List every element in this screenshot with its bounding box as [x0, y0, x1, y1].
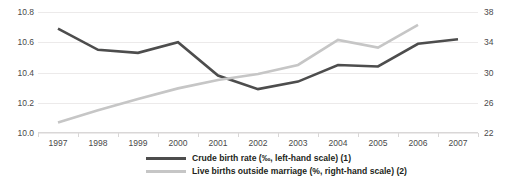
x-tick: [318, 133, 319, 137]
legend-label-live-births-outside-marriage: Live births outside marriage (%, right-h…: [192, 167, 407, 176]
left-axis-tick-label: 10.0: [4, 129, 34, 138]
right-axis-tick-label: 30: [484, 69, 514, 78]
x-tick: [78, 133, 79, 137]
legend-swatch-crude-birth-rate: [146, 157, 186, 160]
right-axis-tick-label: 26: [484, 99, 514, 108]
x-axis-tick-label: 1998: [76, 139, 120, 148]
left-axis-tick-label: 10.2: [4, 99, 34, 108]
x-tick: [238, 133, 239, 137]
series-lines: [38, 12, 478, 133]
dual-axis-line-chart: 10.010.210.410.610.8 2226303438 19971998…: [0, 0, 518, 190]
x-axis-tick-label: 2000: [156, 139, 200, 148]
legend-swatch-live-births-outside-marriage: [146, 170, 186, 173]
x-tick: [38, 133, 39, 137]
right-axis-tick-label: 38: [484, 8, 514, 17]
legend-label-crude-birth-rate: Crude birth rate (‰, left-hand scale) (1…: [192, 154, 351, 163]
legend-item: Crude birth rate (‰, left-hand scale) (1…: [0, 152, 518, 165]
legend-item: Live births outside marriage (%, right-h…: [0, 165, 518, 178]
gridline: [38, 133, 478, 134]
chart-legend: Crude birth rate (‰, left-hand scale) (1…: [0, 152, 518, 178]
x-axis-tick-label: 2004: [316, 139, 360, 148]
series-line: [58, 25, 418, 123]
plot-area: [38, 12, 478, 133]
series-line: [58, 29, 458, 90]
right-axis-tick-label: 34: [484, 38, 514, 47]
x-tick: [198, 133, 199, 137]
x-axis-tick-label: 2007: [436, 139, 480, 148]
x-axis-tick-label: 2002: [236, 139, 280, 148]
x-axis-tick-label: 2005: [356, 139, 400, 148]
x-tick: [158, 133, 159, 137]
x-tick: [438, 133, 439, 137]
x-tick: [358, 133, 359, 137]
x-tick: [118, 133, 119, 137]
left-axis-tick-label: 10.4: [4, 69, 34, 78]
x-axis-tick-label: 1997: [36, 139, 80, 148]
x-axis-tick-label: 2001: [196, 139, 240, 148]
x-tick: [478, 133, 479, 137]
x-axis-tick-label: 2003: [276, 139, 320, 148]
x-tick: [278, 133, 279, 137]
x-tick: [398, 133, 399, 137]
x-axis-tick-label: 2006: [396, 139, 440, 148]
left-axis-tick-label: 10.8: [4, 8, 34, 17]
x-axis-tick-label: 1999: [116, 139, 160, 148]
left-axis-tick-label: 10.6: [4, 38, 34, 47]
right-axis-tick-label: 22: [484, 129, 514, 138]
